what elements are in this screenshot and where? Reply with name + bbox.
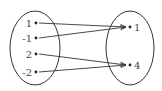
domain-point-label: -1 xyxy=(22,33,32,44)
codomain-elements: 14 xyxy=(129,22,141,71)
domain-point-dot xyxy=(35,71,38,74)
mapping-arrow xyxy=(39,54,126,65)
codomain-point-label: 4 xyxy=(134,60,140,71)
codomain-point-dot xyxy=(129,64,132,67)
mapping-arrow xyxy=(39,27,126,38)
codomain-point-label: 1 xyxy=(134,22,140,33)
domain-point-dot xyxy=(35,22,38,25)
mapping-diagram: 1-12-2 14 xyxy=(0,0,162,91)
codomain-point-dot xyxy=(129,26,132,29)
mapping-arrow xyxy=(39,23,126,27)
domain-point-label: 1 xyxy=(26,18,32,29)
domain-elements: 1-12-2 xyxy=(22,18,37,78)
domain-point-label: -2 xyxy=(22,67,32,78)
domain-point-dot xyxy=(35,53,38,56)
domain-point-label: 2 xyxy=(26,49,32,60)
codomain-ellipse xyxy=(106,11,154,85)
mapping-arrows xyxy=(39,23,126,72)
mapping-arrow xyxy=(39,65,126,72)
domain-point-dot xyxy=(35,37,38,40)
